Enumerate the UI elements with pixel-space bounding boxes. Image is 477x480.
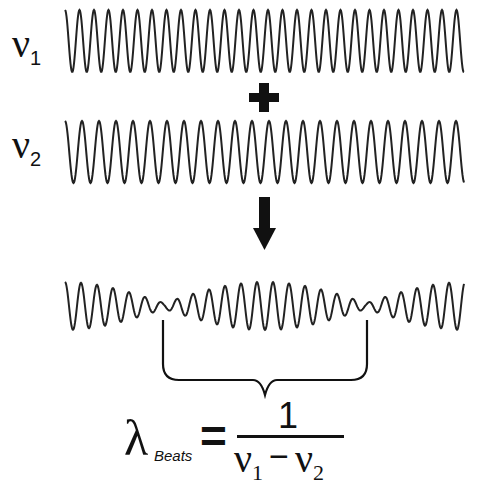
label-nu2: ν2	[12, 125, 41, 165]
beats-subscript: Beats	[154, 447, 192, 464]
subscript-2: 2	[313, 460, 324, 480]
subscript-1: 1	[30, 47, 41, 69]
nu-symbol: ν	[12, 122, 30, 167]
minus-sign: −	[269, 437, 289, 475]
label-nu1: ν1	[12, 24, 41, 64]
down-arrow-icon	[253, 197, 276, 250]
nu-symbol: ν	[12, 21, 30, 66]
beat-wavelength-formula: λ Beats = 1 ν1−ν2	[118, 395, 358, 480]
equals-sign: =	[200, 413, 227, 459]
plus-icon	[249, 83, 279, 112]
subscript-1: 1	[252, 460, 263, 480]
subscript-2: 2	[30, 148, 41, 170]
nu2-symbol: ν	[295, 436, 313, 480]
wave-nu1	[65, 10, 464, 72]
beats-diagram: ν1 ν2 λ Beats = 1 ν1−ν2	[0, 0, 477, 480]
numerator: 1	[278, 398, 298, 434]
lambda-symbol: λ	[124, 413, 148, 463]
fraction-bar	[237, 435, 344, 438]
beat-wave	[65, 282, 464, 330]
denominator: ν1−ν2	[234, 439, 324, 479]
nu1-symbol: ν	[234, 436, 252, 480]
wave-nu2	[65, 121, 464, 183]
